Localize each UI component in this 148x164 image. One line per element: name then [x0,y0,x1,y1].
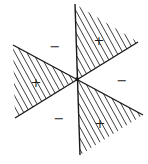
hatch-line [0,0,16,164]
hatch-line [64,0,148,164]
hatch-line [0,0,28,164]
hatch-line [0,0,10,164]
hatch-line [0,0,52,164]
hatch-line [124,0,148,164]
sign-label-top: + [94,33,105,48]
hatch-line [0,0,34,164]
intersection-point [75,77,79,81]
hatch-line [0,0,10,164]
hatch-line [0,0,34,164]
sign-diagram: + − + − + − [0,0,148,164]
hatch-line [0,0,34,164]
hatch-line [142,0,148,164]
hatch-line [130,0,148,164]
hatch-line [82,0,148,164]
hatch-line [0,0,88,164]
hatch-line [0,0,16,164]
sign-label-lower-left: − [54,111,65,126]
hatch-line [64,0,148,164]
hatch-line [130,0,148,164]
hatch-line [0,0,10,164]
hatch-line [0,0,28,164]
hatch-line [0,0,4,164]
hatch-line [0,0,4,164]
hatch-line [136,0,148,164]
sign-label-upper-left: − [50,39,61,54]
sign-label-bottom: + [95,116,106,131]
hatch-line [136,0,148,164]
hatch-line [142,0,148,164]
hatch-line [0,0,28,164]
hatch-line [0,0,88,164]
hatch-line [64,0,148,164]
hatch-line [0,0,88,164]
hatch-line [0,0,16,164]
hatch-line [136,0,148,164]
hatch-line [0,0,52,164]
hatch-line [82,0,148,164]
hatch-line [142,0,148,164]
hatch-line [58,0,148,164]
hatch-line [130,0,148,164]
hatch-line [0,0,4,164]
hatch-line [52,0,142,164]
hatch-line [124,0,148,164]
hatch-line [124,0,148,164]
hatch-line [58,0,148,164]
hatch-line [82,0,148,164]
hatch-line [58,0,148,164]
hatch-line [0,0,52,164]
hatch-line [52,0,142,164]
sign-label-right: − [117,73,128,88]
hatch-line [52,0,142,164]
sign-label-left: + [31,75,42,90]
